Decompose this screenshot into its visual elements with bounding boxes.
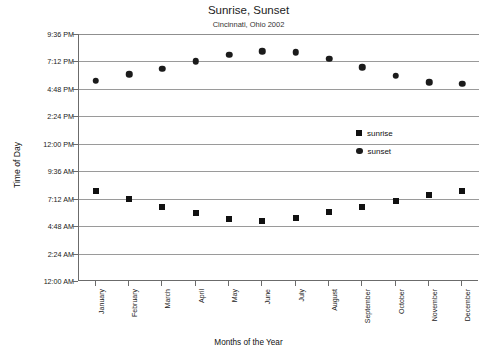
y-axis-tick-label: 4:48 AM bbox=[48, 222, 74, 231]
data-point-sunset bbox=[259, 48, 266, 55]
x-axis-tick-mark bbox=[295, 281, 296, 286]
x-axis-tick-label: March bbox=[164, 289, 171, 308]
x-axis-tick-label: December bbox=[464, 289, 471, 321]
data-point-sunset bbox=[192, 58, 199, 65]
chart-title: Sunrise, Sunset bbox=[0, 4, 497, 16]
x-axis-tick-label: February bbox=[131, 289, 138, 317]
x-axis-tick-label: April bbox=[198, 289, 205, 303]
y-axis-tick-label: 12:00 AM bbox=[44, 277, 74, 286]
data-point-sunrise bbox=[359, 204, 365, 210]
x-axis-tick-label: May bbox=[231, 289, 238, 302]
data-point-sunrise bbox=[326, 209, 332, 215]
x-axis-tick-mark bbox=[428, 281, 429, 286]
y-axis-tick-mark bbox=[72, 281, 78, 282]
y-axis-tick-label: 9:36 AM bbox=[48, 167, 74, 176]
x-axis-tick-mark bbox=[395, 281, 396, 286]
data-point-sunset bbox=[392, 72, 399, 79]
data-point-sunset bbox=[159, 65, 166, 72]
x-axis-tick-mark bbox=[95, 281, 96, 286]
data-point-sunrise bbox=[93, 188, 99, 194]
y-axis-title: Time of Day bbox=[12, 110, 22, 220]
data-point-sunrise bbox=[393, 198, 399, 204]
data-point-sunset bbox=[326, 56, 333, 63]
data-point-sunset bbox=[126, 71, 133, 78]
chart-legend: sunrisesunset bbox=[356, 124, 393, 160]
data-point-sunrise bbox=[159, 204, 165, 210]
gridline bbox=[79, 254, 479, 255]
x-axis-tick-mark bbox=[161, 281, 162, 286]
square-marker-icon bbox=[356, 130, 362, 136]
x-axis-tick-mark bbox=[195, 281, 196, 286]
data-point-sunset bbox=[92, 77, 99, 84]
y-axis-tick-label: 9:36 PM bbox=[47, 30, 74, 39]
data-point-sunrise bbox=[293, 215, 299, 221]
circle-marker-icon bbox=[356, 148, 363, 155]
gridline bbox=[79, 89, 479, 90]
gridline bbox=[79, 61, 479, 62]
x-axis-tick-mark bbox=[328, 281, 329, 286]
legend-label: sunrise bbox=[367, 129, 393, 138]
data-point-sunrise bbox=[126, 196, 132, 202]
y-axis-tick-label: 12:00 PM bbox=[43, 139, 74, 148]
plot-area bbox=[78, 34, 478, 281]
data-point-sunrise bbox=[193, 210, 199, 216]
data-point-sunrise bbox=[426, 192, 432, 198]
x-axis-tick-label: November bbox=[431, 289, 438, 321]
x-axis-tick-label: June bbox=[264, 289, 271, 304]
legend-label: sunset bbox=[368, 147, 392, 156]
x-axis-tick-mark bbox=[361, 281, 362, 286]
data-point-sunset bbox=[426, 79, 433, 86]
x-axis-tick-label: August bbox=[331, 289, 338, 311]
x-axis-tick-mark bbox=[461, 281, 462, 286]
y-axis-tick-label: 4:48 PM bbox=[47, 84, 74, 93]
gridline bbox=[79, 34, 479, 35]
legend-item-sunrise: sunrise bbox=[356, 124, 393, 142]
chart-container: Sunrise, Sunset Cincinnati, Ohio 2002 Ti… bbox=[0, 0, 497, 358]
x-axis-tick-label: July bbox=[298, 289, 305, 301]
x-axis-tick-label: October bbox=[398, 289, 405, 314]
x-axis-tick-mark bbox=[128, 281, 129, 286]
gridline bbox=[79, 199, 479, 200]
data-point-sunset bbox=[359, 64, 366, 71]
gridline bbox=[79, 171, 479, 172]
y-axis-tick-label: 7:12 PM bbox=[47, 57, 74, 66]
data-point-sunrise bbox=[226, 216, 232, 222]
chart-subtitle: Cincinnati, Ohio 2002 bbox=[0, 20, 497, 29]
gridline bbox=[79, 116, 479, 117]
x-axis-tick-mark bbox=[261, 281, 262, 286]
data-point-sunrise bbox=[459, 188, 465, 194]
data-point-sunset bbox=[292, 49, 299, 56]
x-axis-title: Months of the Year bbox=[0, 338, 497, 347]
y-axis-tick-label: 2:24 AM bbox=[48, 249, 74, 258]
x-axis-tick-label: September bbox=[364, 289, 371, 323]
gridline bbox=[79, 226, 479, 227]
data-point-sunset bbox=[459, 80, 466, 87]
x-axis-tick-label: January bbox=[98, 289, 105, 314]
data-point-sunrise bbox=[259, 218, 265, 224]
data-point-sunset bbox=[226, 52, 233, 59]
y-axis-tick-label: 2:24 PM bbox=[47, 112, 74, 121]
gridline bbox=[79, 144, 479, 145]
y-axis-tick-label: 7:12 AM bbox=[48, 194, 74, 203]
legend-item-sunset: sunset bbox=[356, 142, 393, 160]
x-axis-tick-mark bbox=[228, 281, 229, 286]
